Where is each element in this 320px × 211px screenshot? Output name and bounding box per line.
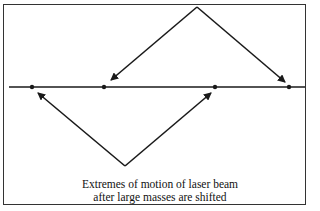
- upper-arrow-left: [111, 7, 197, 80]
- beam-point-4: [287, 85, 291, 89]
- upper-arrow-right: [197, 7, 285, 82]
- diagram-caption: Extremes of motion of laser beam after l…: [60, 178, 260, 204]
- lower-arrow-left: [38, 93, 125, 166]
- beam-point-3: [213, 85, 217, 89]
- beam-point-1: [30, 85, 34, 89]
- caption-line-2: after large masses are shifted: [60, 191, 260, 204]
- beam-point-2: [102, 85, 106, 89]
- caption-line-1: Extremes of motion of laser beam: [60, 178, 260, 191]
- lower-arrow-right: [125, 93, 211, 166]
